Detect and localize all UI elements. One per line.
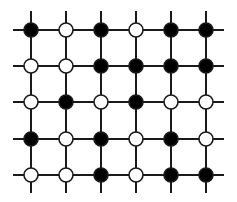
open-node-icon	[129, 23, 143, 37]
open-node-icon	[199, 95, 213, 109]
filled-node-icon	[24, 132, 38, 146]
filled-node-icon	[199, 59, 213, 73]
open-node-icon	[129, 168, 143, 182]
filled-node-icon	[164, 59, 178, 73]
open-node-icon	[199, 132, 213, 146]
open-node-icon	[59, 23, 73, 37]
filled-node-icon	[94, 132, 108, 146]
open-node-icon	[94, 95, 108, 109]
open-node-icon	[24, 59, 38, 73]
filled-node-icon	[164, 23, 178, 37]
filled-node-icon	[129, 59, 143, 73]
filled-node-icon	[129, 95, 143, 109]
filled-node-icon	[164, 168, 178, 182]
open-node-icon	[59, 59, 73, 73]
open-node-icon	[164, 95, 178, 109]
filled-node-icon	[199, 23, 213, 37]
filled-node-icon	[94, 23, 108, 37]
open-node-icon	[24, 95, 38, 109]
filled-node-icon	[94, 59, 108, 73]
open-node-icon	[129, 132, 143, 146]
lattice-lines	[13, 11, 224, 193]
filled-node-icon	[59, 95, 73, 109]
open-node-icon	[24, 168, 38, 182]
open-node-icon	[59, 168, 73, 182]
filled-node-icon	[199, 168, 213, 182]
lattice-diagram	[0, 0, 237, 202]
filled-node-icon	[24, 23, 38, 37]
open-node-icon	[59, 132, 73, 146]
filled-node-icon	[164, 132, 178, 146]
filled-node-icon	[94, 168, 108, 182]
